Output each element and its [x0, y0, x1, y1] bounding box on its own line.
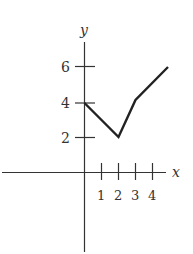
chart-canvas: x y 1 2 3 4 2 4 6 [0, 0, 193, 254]
x-axis-label: x [172, 164, 180, 180]
data-line [85, 67, 169, 137]
y-tick-label: 2 [61, 130, 70, 146]
x-tick-label: 2 [114, 188, 122, 203]
y-tick-label: 4 [61, 95, 70, 111]
y-tick-label: 6 [61, 59, 70, 75]
x-ticks [102, 163, 153, 180]
x-tick-label: 4 [148, 188, 156, 203]
x-tick-label: 3 [131, 188, 139, 203]
y-axis-label: y [79, 22, 89, 38]
x-tick-label: 1 [97, 188, 105, 203]
